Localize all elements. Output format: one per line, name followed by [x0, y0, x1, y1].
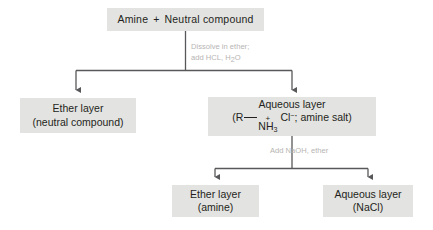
aqueous-nacl-title: Aqueous layer	[334, 188, 401, 201]
ether-amine-title: Ether layer	[190, 188, 241, 201]
ether-neutral-subtitle: (neutral compound)	[32, 116, 123, 129]
node-aqueous-layer-amine-salt: Aqueous layer (R+NH3 Cl−; amine salt)	[208, 97, 376, 136]
reagent-step-1: Dissolve in ether; add HCL, H2O	[191, 41, 249, 65]
aqueous-nacl-subtitle: (NaCl)	[353, 201, 383, 214]
nh3-subscript: 3	[274, 125, 278, 134]
formula-open-paren-r: (R	[232, 111, 243, 123]
flowchart-diagram: Amine+Neutral compound Dissolve in ether…	[0, 0, 433, 230]
reagent-step-2: Add NaOH, ether	[270, 145, 328, 156]
reactant-neutral-compound-label: Neutral compound	[165, 13, 254, 25]
plus-symbol: +	[148, 13, 164, 25]
aqueous-salt-title: Aqueous layer	[258, 98, 325, 111]
amine-salt-close-label: ; amine salt)	[295, 111, 352, 123]
node-ether-layer-neutral-compound: Ether layer (neutral compound)	[20, 98, 136, 133]
node-aqueous-layer-nacl: Aqueous layer (NaCl)	[323, 185, 413, 217]
reagent-step-1-line-2-suffix: O	[235, 53, 241, 62]
bond-line-icon	[244, 117, 257, 118]
chloride-label: Cl	[280, 111, 290, 123]
amine-salt-formula: (R+NH3 Cl−; amine salt)	[232, 111, 352, 135]
reactant-amine-label: Amine	[117, 13, 148, 25]
reagent-step-1-line-2-prefix: add HCL, H	[191, 53, 231, 62]
reagent-step-2-line-1: Add NaOH, ether	[270, 145, 328, 156]
starting-mixture-text: Amine+Neutral compound	[117, 13, 253, 26]
node-starting-mixture: Amine+Neutral compound	[107, 8, 264, 31]
reagent-step-1-line-1: Dissolve in ether;	[191, 41, 249, 52]
ether-amine-subtitle: (amine)	[198, 201, 234, 214]
reagent-step-1-line-2: add HCL, H2O	[191, 52, 249, 65]
node-ether-layer-amine: Ether layer (amine)	[172, 185, 259, 217]
nh-label: NH	[258, 120, 273, 132]
ammonium-group: +NH3	[258, 116, 277, 135]
nh3-group: NH3	[258, 121, 277, 135]
ether-neutral-title: Ether layer	[53, 102, 104, 115]
